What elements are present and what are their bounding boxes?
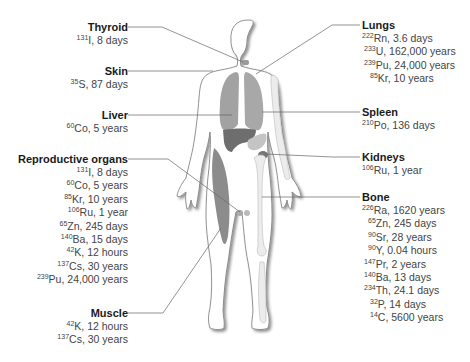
organ-title: Reproductive organs (18, 152, 128, 166)
label-lungs: Lungs 222Rn, 3.6 days 233U, 162,000 year… (362, 18, 456, 86)
isotope-entry: 65Zn, 245 days (362, 217, 445, 230)
reproductive-shape (237, 210, 243, 216)
isotope-entry: 140Ba, 13 days (362, 271, 445, 284)
isotope-entry: 42K, 12 hours (57, 320, 128, 333)
isotope-entry: 90Sr, 28 years (362, 231, 445, 244)
isotope-entry: 60Co, 5 years (18, 179, 128, 192)
isotope-entry: 233U, 162,000 years (362, 45, 456, 58)
organ-title: Lungs (362, 18, 456, 32)
isotope-entry: 32P, 14 days (362, 298, 445, 311)
isotope-entry: 140Ba, 15 days (18, 233, 128, 246)
isotope-entry: 60Co, 5 years (67, 122, 129, 135)
isotope-entry: 85Kr, 10 years (362, 72, 456, 85)
leader-lungs (256, 25, 360, 74)
label-muscle: Muscle 42K, 12 hours 137Cs, 30 years (57, 306, 128, 347)
thyroid-shape (242, 60, 249, 65)
label-kidneys: Kidneys 106Ru, 1 year (362, 150, 422, 177)
isotope-entry: 239Pu, 24,000 years (18, 273, 128, 286)
label-reproductive-organs: Reproductive organs 131I, 8 days 60Co, 5… (18, 152, 128, 287)
isotope-entry: 35S, 87 days (71, 78, 128, 91)
isotope-entry: 14C, 5600 years (362, 311, 445, 324)
isotope-entry: 226Ra, 1620 years (362, 204, 445, 217)
isotope-entry: 234Th, 24.1 days (362, 284, 445, 297)
label-thyroid: Thyroid 131I, 8 days (77, 20, 128, 47)
organ-title: Skin (71, 64, 128, 78)
isotope-entry: 137Cs, 30 years (18, 260, 128, 273)
label-skin: Skin 35S, 87 days (71, 64, 128, 91)
leader-muscle (128, 228, 221, 313)
isotope-entry: 222Rn, 3.6 days (362, 32, 456, 45)
isotope-entry: 137Cs, 30 years (57, 333, 128, 346)
leader-thyroid (128, 27, 243, 62)
isotope-entry: 42K, 12 hours (18, 246, 128, 259)
organ-title: Muscle (57, 306, 128, 320)
organ-title: Liver (67, 108, 129, 122)
body-silhouette (177, 20, 301, 330)
isotope-entry: 65Zn, 245 days (18, 220, 128, 233)
organ-title: Thyroid (77, 20, 128, 34)
label-spleen: Spleen 210Po, 136 days (362, 105, 435, 132)
isotope-entry: 210Po, 136 days (362, 119, 435, 132)
organ-title: Kidneys (362, 150, 422, 164)
isotope-entry: 131I, 8 days (18, 166, 128, 179)
isotope-entry: 90Y, 0.04 hours (362, 244, 445, 257)
isotope-entry: 106Ru, 1 year (18, 206, 128, 219)
isotope-entry: 85Kr, 10 years (18, 193, 128, 206)
label-bone: Bone 226Ra, 1620 years 65Zn, 245 days 90… (362, 190, 445, 325)
label-liver: Liver 60Co, 5 years (67, 108, 129, 135)
organ-title: Spleen (362, 105, 435, 119)
isotope-entry: 239Pu, 24,000 years (362, 59, 456, 72)
isotope-entry: 147Pr, 2 years (362, 258, 445, 271)
organ-title: Bone (362, 190, 445, 204)
isotope-entry: 131I, 8 days (77, 34, 128, 47)
isotope-entry: 106Ru, 1 year (362, 164, 422, 177)
